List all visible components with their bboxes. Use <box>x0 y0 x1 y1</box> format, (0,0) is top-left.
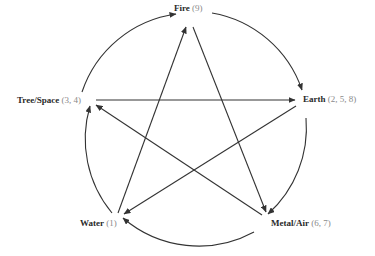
arc-tree-to-fire <box>82 14 176 92</box>
node-tree-name: Tree/Space <box>17 95 59 105</box>
star-cycle <box>96 27 296 215</box>
node-metal-numbers: (6, 7) <box>311 218 331 228</box>
node-water-numbers: (1) <box>106 218 117 228</box>
node-tree: Tree/Space (3, 4) <box>17 95 81 105</box>
star-metal-to-tree <box>96 105 262 215</box>
arc-fire-to-earth <box>212 13 302 90</box>
node-water-name: Water <box>80 218 104 228</box>
node-earth: Earth (2, 5, 8) <box>303 94 356 104</box>
star-fire-to-metal <box>193 27 266 212</box>
arc-water-to-tree <box>85 106 112 213</box>
node-fire: Fire (9) <box>174 3 203 13</box>
node-tree-numbers: (3, 4) <box>61 95 81 105</box>
circle-cycle <box>82 13 306 246</box>
node-metal: Metal/Air (6, 7) <box>271 218 331 228</box>
node-water: Water (1) <box>80 218 117 228</box>
node-fire-numbers: (9) <box>192 3 203 13</box>
node-earth-numbers: (2, 5, 8) <box>328 94 357 104</box>
arc-metal-to-water <box>123 218 254 246</box>
node-metal-name: Metal/Air <box>271 218 309 228</box>
arc-earth-to-metal <box>268 118 306 214</box>
star-earth-to-water <box>124 106 296 214</box>
node-earth-name: Earth <box>303 94 326 104</box>
node-fire-name: Fire <box>174 3 190 13</box>
star-water-to-fire <box>118 27 186 213</box>
